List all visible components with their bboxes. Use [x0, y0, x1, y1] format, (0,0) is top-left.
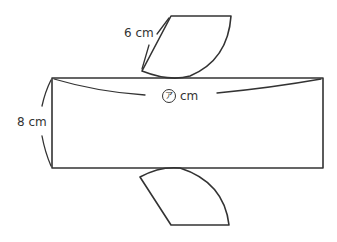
label-6cm: 6 cm: [124, 26, 154, 40]
top-sector-face: [142, 16, 231, 78]
bottom-sector-face: [140, 168, 229, 225]
label-a-cm: ア cm: [162, 89, 198, 103]
dimension-line-a-right: [217, 79, 321, 93]
net-diagram: 6 cm 8 cm ア cm: [0, 0, 337, 242]
dimension-line-8cm-lower: [42, 136, 51, 166]
dimension-line-8cm-upper: [42, 80, 51, 106]
dimension-line-a-left: [54, 79, 145, 95]
label-8cm: 8 cm: [17, 115, 47, 129]
label-a-unit: cm: [180, 89, 198, 103]
circled-a-symbol: ア: [162, 89, 176, 103]
